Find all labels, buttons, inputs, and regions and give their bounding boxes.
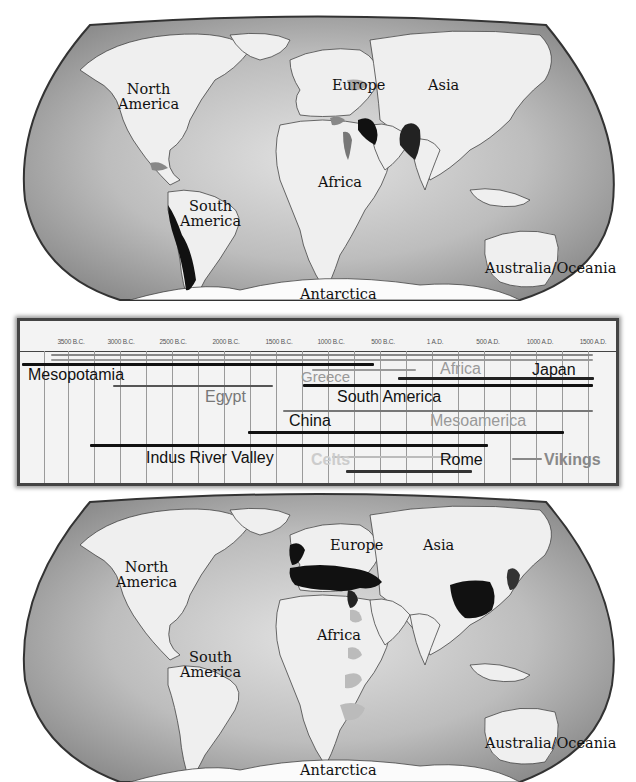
label-china: China xyxy=(289,412,331,430)
label-mesopotamia: Mesopotamia xyxy=(28,366,124,384)
bar-china xyxy=(248,431,564,434)
top-map-label-north-america: North America xyxy=(118,82,179,112)
tick-label: 2500 B.C. xyxy=(159,338,186,345)
top-map-label-asia: Asia xyxy=(428,78,459,93)
tick-label: 1500 B.C. xyxy=(265,338,292,345)
tick-label: 1000 B.C. xyxy=(317,338,344,345)
top-map-label-europe: Europe xyxy=(332,78,385,93)
tick-label: 3500 B.C. xyxy=(57,338,84,345)
tick-label: 500 A.D. xyxy=(476,338,499,345)
bar-rome xyxy=(346,470,472,473)
top-map-label-australia-oceania: Australia/Oceania xyxy=(485,261,616,276)
bar-indus-river-valley xyxy=(90,444,488,447)
label-mesoamerica: Mesoamerica xyxy=(430,412,526,430)
tick-label: 1 A.D. xyxy=(427,338,444,345)
tick-label: 1000 A.D. xyxy=(527,338,554,345)
label-rome: Rome xyxy=(440,451,483,469)
bottom-map-label-australia-oceania: Australia/Oceania xyxy=(485,736,616,751)
label-vikings: Vikings xyxy=(544,451,601,469)
bottom-map-label-africa: Africa xyxy=(317,628,361,643)
label-south-america: South America xyxy=(337,388,441,406)
bottom-map-label-south-america: South America xyxy=(180,650,241,680)
timeline-axis xyxy=(20,351,616,352)
label-greece: Greece xyxy=(301,368,350,386)
bottom-map-label-antarctica: Antarctica xyxy=(300,763,377,778)
bar-egypt xyxy=(113,385,273,387)
bottom-map-label-europe: Europe xyxy=(330,538,383,553)
top-map-label-africa: Africa xyxy=(318,175,362,190)
label-celts: Celts xyxy=(311,451,350,469)
bottom-map-label-north-america: North America xyxy=(116,560,177,590)
bar-celts xyxy=(332,456,454,458)
civilization-timeline: 3500 B.C. 3000 B.C. 2500 B.C. 2000 B.C. … xyxy=(17,318,619,486)
bar-vikings xyxy=(512,458,542,460)
tick-label: 3000 B.C. xyxy=(107,338,134,345)
top-map-label-south-america: South America xyxy=(180,199,241,229)
bottom-map-label-asia: Asia xyxy=(423,538,454,553)
label-africa: Africa xyxy=(440,360,481,378)
bar-africa-top xyxy=(51,359,593,361)
tick-label: 2000 B.C. xyxy=(212,338,239,345)
label-indus-river-valley: Indus River Valley xyxy=(146,449,274,467)
grid-line xyxy=(276,351,277,483)
label-japan: Japan xyxy=(532,361,576,379)
tick-label: 1500 A.D. xyxy=(580,338,607,345)
tick-label: 500 B.C. xyxy=(371,338,395,345)
bar-mesoamerica-top xyxy=(51,354,593,356)
label-egypt: Egypt xyxy=(205,388,246,406)
top-map-label-antarctica: Antarctica xyxy=(300,287,377,302)
